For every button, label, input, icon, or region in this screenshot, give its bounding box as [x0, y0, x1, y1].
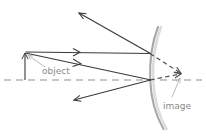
vertex-incident-ray-arrowhead [73, 59, 82, 67]
parallel-incident-ray [26, 52, 152, 54]
parallel-reflected-ray [79, 13, 151, 54]
vertex-reflected-ray [74, 80, 151, 100]
virtual-extension-lower [150, 74, 181, 80]
object-label: object [42, 66, 70, 76]
image-leader-line [172, 78, 180, 97]
optics-ray-diagram-canvas: object image [0, 0, 206, 139]
ray-diagram-figure: object image [0, 0, 206, 139]
image-label: image [163, 101, 191, 111]
